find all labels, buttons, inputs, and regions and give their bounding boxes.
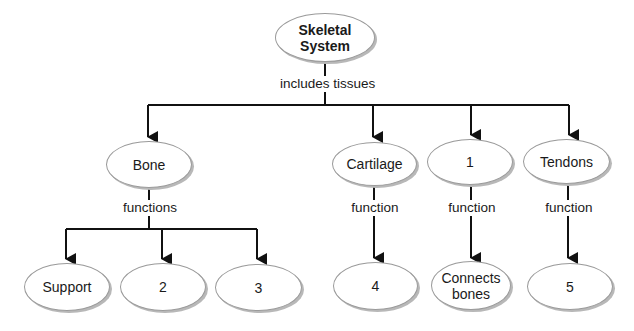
node-label: Tendons	[540, 154, 593, 170]
node-connects-bones: Connects bones	[431, 261, 511, 310]
node-label: 5	[566, 279, 574, 295]
node-blank-4: 4	[333, 262, 418, 310]
node-label: 1	[466, 154, 474, 170]
node-bone: Bone	[106, 141, 192, 188]
link-tendons-function: function	[543, 200, 595, 216]
node-cartilage: Cartilage	[332, 142, 417, 186]
link-includes-tissues: includes tissues	[279, 76, 373, 92]
link-1-function: function	[446, 200, 498, 216]
node-skeletal-system: Skeletal System	[275, 13, 375, 62]
node-label: 3	[255, 280, 263, 296]
node-label: Cartilage	[346, 156, 402, 172]
node-blank-3: 3	[215, 264, 302, 311]
node-tendons: Tendons	[523, 139, 610, 184]
link-cartilage-function: function	[349, 200, 401, 216]
node-label: Connects bones	[441, 270, 501, 302]
node-label: Support	[42, 279, 91, 295]
node-blank-2: 2	[120, 263, 206, 311]
node-blank-1: 1	[427, 139, 513, 185]
node-blank-5: 5	[527, 263, 613, 310]
node-label: 4	[372, 278, 380, 294]
node-support: Support	[24, 263, 110, 311]
node-label: Skeletal System	[290, 22, 360, 54]
link-bone-functions: functions	[120, 200, 180, 216]
node-label: 2	[159, 279, 167, 295]
node-label: Bone	[133, 157, 166, 173]
